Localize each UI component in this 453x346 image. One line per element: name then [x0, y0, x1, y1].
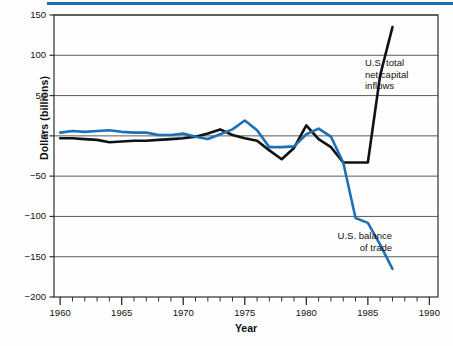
x-axis-tick-label: 1985 [346, 307, 390, 318]
y-axis-tick-marks [50, 15, 55, 297]
x-axis-tick-label: 1960 [38, 307, 82, 318]
gridlines [54, 15, 438, 257]
series-annotation-net-capital-inflows: U.S. total net capital inflows [365, 57, 450, 92]
line-chart-plot [0, 0, 453, 346]
x-axis-tick-label: 1975 [223, 307, 267, 318]
y-axis-tick-label: 100 [6, 49, 46, 60]
x-axis-tick-label: 1990 [407, 307, 451, 318]
series-line-net-capital-inflows [60, 27, 392, 162]
y-axis-tick-label: 50 [6, 90, 46, 101]
y-axis-tick-label: 150 [6, 9, 46, 20]
x-axis-tick-label: 1980 [284, 307, 328, 318]
x-axis-tick-marks [60, 297, 429, 305]
y-axis-tick-label: −100 [6, 210, 46, 221]
y-axis-tick-label: −200 [6, 291, 46, 302]
chart-figure: Dollars (billions) Year 150100500−50−100… [0, 0, 453, 346]
y-axis-tick-label: −150 [6, 251, 46, 262]
y-axis-title: Dollars (billions) [38, 48, 50, 188]
x-axis-tick-label: 1970 [161, 307, 205, 318]
x-axis-title: Year [54, 322, 438, 334]
y-axis-tick-label: −50 [6, 170, 46, 181]
series-annotation-balance-of-trade: U.S. balance of trade [300, 230, 392, 253]
y-axis-tick-label: 0 [6, 130, 46, 141]
x-axis-tick-label: 1965 [100, 307, 144, 318]
